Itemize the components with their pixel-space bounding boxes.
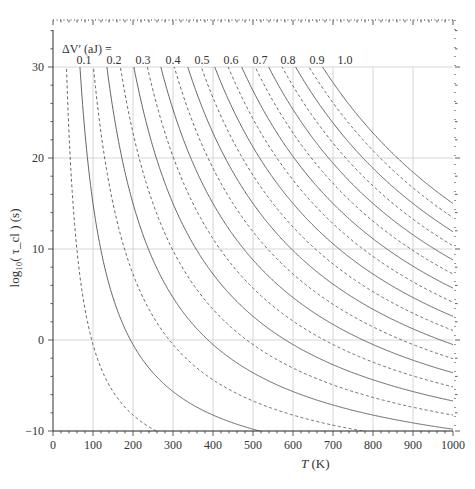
x-tick-label: 100 [84, 438, 102, 452]
curve-solid-0.8 [61, 0, 453, 260]
y-tick-label: 30 [32, 60, 44, 74]
x-tick-label: 1000 [441, 438, 465, 452]
curve-dashed-0.95 [61, 0, 453, 218]
curve-solid-1.0 [61, 0, 453, 204]
x-axis-title: T (K) [301, 456, 330, 471]
x-tick-label: 600 [284, 438, 302, 452]
legend-label: 0.7 [253, 53, 268, 67]
legend-label: 0.4 [166, 53, 181, 67]
curve-solid-0.9 [61, 0, 453, 232]
curve-solid-0.5 [61, 0, 453, 345]
legend-label: 0.5 [195, 53, 210, 67]
legend-label: 0.6 [224, 53, 239, 67]
curve-dashed-0.55 [61, 0, 453, 330]
x-tick-label: 900 [404, 438, 422, 452]
legend-label: 0.3 [136, 53, 151, 67]
x-tick-label: 400 [204, 438, 222, 452]
x-tick-label: 300 [164, 438, 182, 452]
y-axis-title: log₁₀( τ_cl ) (s) [7, 209, 22, 288]
x-tick-label: 800 [364, 438, 382, 452]
legend-label: 0.1 [77, 53, 92, 67]
legend-label: 0.2 [107, 53, 122, 67]
legend-label: 1.0 [338, 53, 353, 67]
curve-solid-0.1 [61, 0, 453, 457]
legend-label: 0.9 [310, 53, 325, 67]
chart: 01002003004005006007008009001000−1001020… [0, 0, 475, 489]
x-tick-label: 700 [324, 438, 342, 452]
legend-label: 0.8 [281, 53, 296, 67]
curve-solid-0.7 [61, 0, 453, 288]
y-tick-label: 0 [38, 333, 44, 347]
curve-dashed-0.65 [61, 0, 453, 302]
y-tick-label: −10 [25, 424, 44, 438]
x-tick-label: 200 [124, 438, 142, 452]
y-tick-label: 20 [32, 151, 44, 165]
y-tick-label: 10 [32, 242, 44, 256]
x-tick-label: 500 [244, 438, 262, 452]
x-tick-label: 0 [50, 438, 56, 452]
